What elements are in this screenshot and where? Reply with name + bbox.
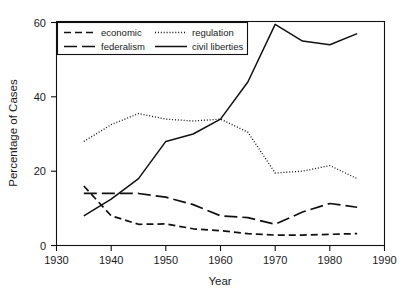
- legend-label-regulation: regulation: [192, 27, 234, 38]
- x-axis-ticks: [57, 246, 385, 252]
- y-tick-label-40: 40: [34, 91, 46, 103]
- x-tick-label-1990: 1990: [372, 254, 396, 266]
- x-axis-title: Year: [208, 275, 231, 287]
- legend: economic regulation federalism civil lib…: [58, 23, 248, 55]
- series-line-regulation: [84, 114, 357, 179]
- x-tick-label-1960: 1960: [208, 254, 232, 266]
- y-tick-label-0: 0: [40, 240, 46, 252]
- y-axis-title: Percentage of Cases: [7, 79, 19, 187]
- legend-label-federalism: federalism: [101, 41, 145, 52]
- x-tick-label-1970: 1970: [263, 254, 287, 266]
- series-group: [84, 24, 357, 235]
- y-axis-ticks: [51, 23, 57, 246]
- x-tick-label-1940: 1940: [99, 254, 123, 266]
- legend-label-economic: economic: [101, 27, 142, 38]
- legend-label-civil-liberties: civil liberties: [192, 41, 243, 52]
- x-tick-label-1980: 1980: [318, 254, 342, 266]
- x-tick-label-1950: 1950: [154, 254, 178, 266]
- y-tick-label-60: 60: [34, 17, 46, 29]
- plot-frame: [57, 22, 385, 246]
- chart-figure: 0 20 40 60 1930 1940 1950 1960 1970 1980…: [0, 0, 407, 297]
- series-line-federalism: [84, 193, 357, 224]
- line-chart: 0 20 40 60 1930 1940 1950 1960 1970 1980…: [0, 0, 407, 297]
- x-tick-label-1930: 1930: [44, 254, 68, 266]
- y-tick-label-20: 20: [34, 165, 46, 177]
